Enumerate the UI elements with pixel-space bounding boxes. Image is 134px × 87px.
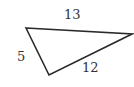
side-label-left: 5 [17, 50, 25, 63]
side-label-top: 13 [64, 8, 81, 21]
triangle-shape [26, 28, 132, 75]
side-label-bottom-right: 12 [82, 61, 99, 74]
